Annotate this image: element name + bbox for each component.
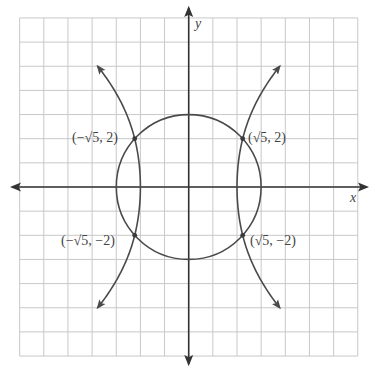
point-label-neg-sqrt5-neg2: (−√5, −2) bbox=[61, 233, 115, 249]
y-axis-label: y bbox=[193, 16, 202, 31]
intersection-point-q3 bbox=[132, 233, 137, 238]
x-axis-label: x bbox=[349, 190, 357, 205]
intersection-point-q2 bbox=[132, 136, 137, 141]
point-label-sqrt5-2: (√5, 2) bbox=[248, 130, 286, 146]
point-label-neg-sqrt5-2: (−√5, 2) bbox=[72, 130, 118, 146]
coordinate-plane-diagram: x y (−√5, 2) (√5, 2) (−√5, −2) (√5, −2) bbox=[0, 0, 375, 372]
intersection-point-q1 bbox=[240, 136, 245, 141]
point-label-sqrt5-neg2: (√5, −2) bbox=[250, 233, 296, 249]
intersection-point-q4 bbox=[240, 233, 245, 238]
